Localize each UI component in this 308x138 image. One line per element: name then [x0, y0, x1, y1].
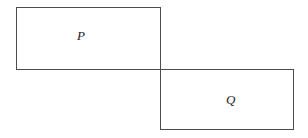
diagram-canvas: P Q [0, 0, 308, 138]
rectangle-q-label: Q [226, 93, 235, 106]
rectangle-p [16, 7, 161, 70]
rectangle-p-label: P [77, 29, 85, 42]
